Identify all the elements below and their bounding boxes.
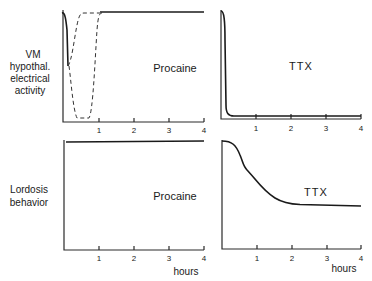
top-ylabel-line1: VM [26,49,41,60]
tl-annotation-procaine: Procaine [153,62,196,74]
bl-tick-2: 2 [132,254,137,263]
bottom-ylabel-line2: behavior [10,197,49,208]
tl-tick-4: 4 [202,126,207,135]
tl-tick-1: 1 [97,126,102,135]
tr-tick-1: 1 [254,124,259,133]
br-tick-4: 4 [359,254,364,263]
bl-xlabel-hours: hours [173,266,198,277]
br-tick-2: 2 [290,254,295,263]
bl-procaine-line [66,141,204,142]
top-ylabel-line2: hypothal. [10,61,51,72]
bottom-right-axes [222,140,361,249]
br-xlabel-hours: hours [331,263,356,274]
top-ylabel-line4: activity [15,85,46,96]
figure: VM hypothal. electrical activity 1 2 3 4… [0,0,372,281]
tl-dashed-curve-2 [69,13,102,118]
br-tick-3: 3 [325,254,330,263]
tl-tick-2: 2 [132,126,137,135]
tl-tick-3: 3 [167,126,172,135]
tr-tick-2: 2 [289,124,294,133]
tr-tick-4: 4 [359,124,364,133]
tl-dashed-curve-1 [68,13,100,66]
tr-tick-3: 3 [324,124,329,133]
br-tick-1: 1 [255,254,260,263]
bottom-ylabel-line1: Lordosis [10,184,48,195]
tr-annotation-ttx: TTX [289,60,313,72]
bl-tick-4: 4 [202,254,207,263]
br-annotation-ttx: TTX [304,186,328,198]
br-ttx-curve [222,141,361,206]
top-ylabel-line3: electrical [10,73,49,84]
bl-tick-1: 1 [97,254,102,263]
bl-annotation-procaine: Procaine [153,190,196,202]
bl-tick-3: 3 [167,254,172,263]
